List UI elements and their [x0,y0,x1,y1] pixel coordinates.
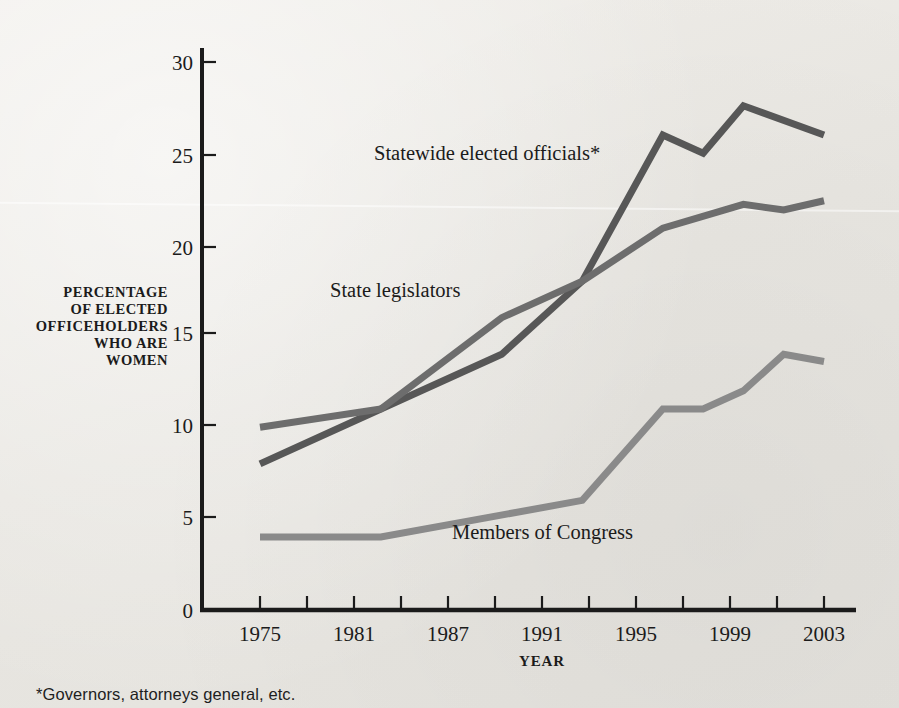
y-tick-label-20: 20 [172,236,193,260]
x-tick-label-1975: 1975 [239,622,281,646]
x-tick-label-1991: 1991 [521,622,563,646]
x-tick-labels: 1975 1981 1987 1991 1995 1999 2003 [239,622,845,646]
y-tick-label-10: 10 [172,414,193,438]
x-tick-label-1981: 1981 [333,622,375,646]
line-chart: 30 25 20 15 10 5 0 1975 1981 [0,0,899,708]
y-axis-title-line-2: OF ELECTED [70,301,168,317]
series-line-members-of-congress [260,354,824,537]
y-tick-label-0: 0 [183,599,194,623]
x-tick-label-1987: 1987 [427,622,469,646]
series-label-members-of-congress: Members of Congress [452,521,633,544]
x-tick-label-1995: 1995 [615,622,657,646]
y-tick-label-15: 15 [172,322,193,346]
y-axis-title-line-5: WOMEN [106,352,168,368]
y-tick-label-25: 25 [172,144,193,168]
y-axis-title-line-1: PERCENTAGE [63,284,168,300]
y-tick-marks [202,62,216,517]
y-tick-label-5: 5 [183,506,194,530]
y-axis-title-line-3: OFFICEHOLDERS [36,318,168,334]
y-axis-title-line-4: WHO ARE [94,335,168,351]
footnote: *Governors, attorneys general, etc. [36,685,295,704]
chart-page: 30 25 20 15 10 5 0 1975 1981 [0,0,899,708]
y-tick-labels: 30 25 20 15 10 5 0 [172,51,193,623]
series-label-statewide-elected-officials: Statewide elected officials* [374,142,600,164]
x-axis-title: YEAR [519,653,565,669]
x-tick-label-1999: 1999 [709,622,751,646]
y-axis-title: PERCENTAGE OF ELECTED OFFICEHOLDERS WHO … [36,284,168,368]
y-tick-label-30: 30 [172,51,193,75]
series-label-state-legislators: State legislators [330,279,460,302]
x-tick-label-2003: 2003 [803,622,845,646]
